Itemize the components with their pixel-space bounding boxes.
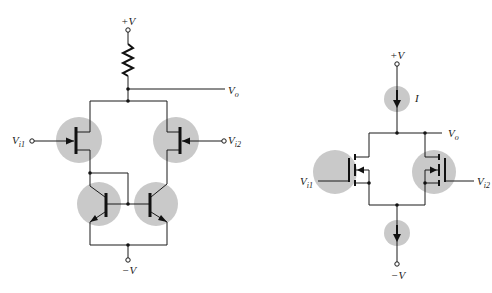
circuit-figure: +V Vo Vi1 Vi2 −V +V I Vo Vi1 Vi2 −V xyxy=(0,0,492,293)
right-pos-supply-label: +V xyxy=(390,50,404,61)
vi2-main: V xyxy=(477,175,484,187)
vo-main: V xyxy=(228,84,235,96)
current-label: I xyxy=(415,93,419,104)
left-circuit xyxy=(30,28,226,262)
jfet2-highlight xyxy=(153,117,199,163)
vi1-terminal xyxy=(30,139,34,143)
right-output-label: Vo xyxy=(448,128,459,142)
schematic-drawing xyxy=(0,0,492,293)
neg-supply-terminal xyxy=(126,258,130,262)
mosfet1-highlight xyxy=(313,150,357,194)
left-input1-label: Vi1 xyxy=(12,135,25,149)
vo-sub: o xyxy=(235,90,239,99)
right-input2-label: Vi2 xyxy=(477,176,490,190)
vo-main: V xyxy=(448,127,455,139)
jfet1-highlight xyxy=(56,117,102,163)
left-input2-label: Vi2 xyxy=(228,135,241,149)
left-pos-supply-label: +V xyxy=(121,16,135,27)
vi2-sub: i2 xyxy=(484,181,490,190)
right-neg-supply-label: −V xyxy=(391,270,405,281)
vi1-sub: i1 xyxy=(307,181,313,190)
vi1-main: V xyxy=(300,175,307,187)
vi2-main: V xyxy=(228,134,235,146)
left-neg-supply-label: −V xyxy=(122,265,136,276)
load-resistor xyxy=(123,44,133,76)
vi1-main: V xyxy=(12,134,19,146)
vi2-sub: i2 xyxy=(235,140,241,149)
vi1-sub: i1 xyxy=(19,140,25,149)
right-pos-supply-terminal xyxy=(395,62,399,66)
left-output-label: Vo xyxy=(228,85,239,99)
vo-sub: o xyxy=(455,133,459,142)
pos-supply-terminal xyxy=(126,28,130,32)
right-input1-label: Vi1 xyxy=(300,176,313,190)
right-circuit xyxy=(313,62,474,266)
vi2-terminal xyxy=(222,139,226,143)
right-neg-supply-terminal xyxy=(395,262,399,266)
